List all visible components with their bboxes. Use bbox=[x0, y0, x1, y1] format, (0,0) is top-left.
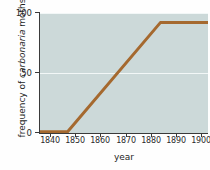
y-tick-0 bbox=[35, 132, 39, 133]
x-axis-title: year bbox=[40, 152, 208, 162]
y-tick-100 bbox=[35, 12, 39, 13]
y-axis-line bbox=[39, 12, 40, 134]
plot-area bbox=[40, 13, 208, 133]
y-axis-title-prefix: frequency of bbox=[17, 78, 27, 138]
chart-figure: 100 50 0 1840 1850 1860 1870 1880 1890 1… bbox=[0, 0, 210, 170]
x-tick-label-1900: 1900 bbox=[186, 136, 210, 145]
y-axis-title-suffix: moths bbox=[17, 0, 27, 30]
y-tick-50 bbox=[35, 72, 39, 73]
data-series-carbonaria-frequency bbox=[40, 13, 208, 133]
y-axis-title: frequency of carbonaria moths bbox=[17, 0, 27, 138]
x-axis-line bbox=[39, 133, 208, 134]
y-axis-title-species: carbonaria bbox=[17, 30, 27, 78]
